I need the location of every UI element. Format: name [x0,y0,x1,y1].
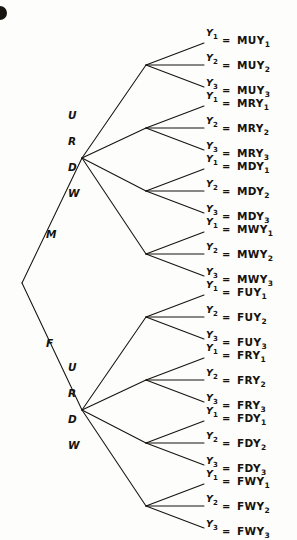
equals-sign-FR-1: = [222,351,230,361]
equals-sign-MR-1: = [222,99,230,109]
outcome-label-FR1: FRY1 [237,350,266,364]
equals-sign-MD-2: = [222,187,230,197]
equals-sign-FR-3: = [222,401,230,411]
leaf-y-label-MD-2: Y2 [206,179,218,192]
outcome-label-FD2: FDY2 [237,438,266,452]
leaf-y-label-MD-1: Y1 [206,154,218,167]
edge-leaf-MU-1 [146,43,204,65]
branch-label-M: M [46,229,56,240]
edge-leaf-FW-3 [146,506,204,528]
equals-sign-MW-2: = [222,250,230,260]
outcome-label-MW1: MWY1 [237,224,273,238]
outcome-label-FU1: FUY1 [237,287,267,301]
leaf-y-label-MR-1: Y1 [206,91,218,104]
equals-sign-MU-3: = [222,86,230,96]
equals-sign-MD-3: = [222,212,230,222]
leaf-y-label-MU-3: Y3 [206,78,218,91]
edge-level2-MD [82,158,146,191]
equals-sign-FU-3: = [222,338,230,348]
leaf-y-label-MW-1: Y1 [206,217,218,230]
tree-branches-svg [0,0,297,540]
equals-sign-FR-2: = [222,376,230,386]
outcome-label-MD2: MDY2 [237,186,269,200]
outcome-label-MW2: MWY2 [237,249,273,263]
edge-level2-FU [82,317,146,410]
outcome-label-FU2: FUY2 [237,312,267,326]
leaf-y-label-FR-2: Y2 [206,368,218,381]
leaf-y-label-MU-1: Y1 [206,28,218,41]
equals-sign-MD-1: = [222,162,230,172]
leaf-y-label-MR-3: Y3 [206,141,218,154]
edge-leaf-MW-1 [146,232,204,254]
equals-sign-MR-2: = [222,124,230,134]
leaf-y-label-FU-3: Y3 [206,330,218,343]
probability-tree-diagram: MFURDWURDWY1=MUY1Y2=MUY2Y3=MUY3Y1=MRY1Y2… [0,0,297,540]
edge-level2-FW [82,410,146,506]
equals-sign-MU-1: = [222,36,230,46]
edge-leaf-FU-3 [146,317,204,339]
equals-sign-MU-2: = [222,61,230,71]
edge-level2-MR [82,128,146,158]
branch-label-level2-3-W: W [68,188,80,199]
leaf-y-label-FW-3: Y3 [206,519,218,532]
outcome-label-MD1: MDY1 [237,161,269,175]
edge-leaf-FR-3 [146,380,204,402]
edge-level2-MU [82,65,146,158]
leaf-y-label-FU-2: Y2 [206,305,218,318]
outcome-label-FD1: FDY1 [237,413,266,427]
equals-sign-FD-2: = [222,439,230,449]
leaf-y-label-FU-1: Y1 [206,280,218,293]
branch-label-level2-7-W: W [68,440,80,451]
branch-label-level2-2-D: D [68,162,77,173]
edge-leaf-FW-1 [146,484,204,506]
leaf-y-label-FD-2: Y2 [206,431,218,444]
equals-sign-FD-1: = [222,414,230,424]
edge-leaf-MW-3 [146,254,204,276]
outcome-label-MU1: MUY1 [237,35,270,49]
leaf-y-label-FW-1: Y1 [206,469,218,482]
leaf-y-label-FR-1: Y1 [206,343,218,356]
leaf-y-label-FW-2: Y2 [206,494,218,507]
outcome-label-MU2: MUY2 [237,60,270,74]
edge-level2-MW [82,158,146,254]
tree-edge-group [22,43,204,528]
branch-label-level2-1-R: R [68,136,76,147]
outcome-label-FR2: FRY2 [237,375,266,389]
equals-sign-FW-2: = [222,502,230,512]
leaf-y-label-FD-1: Y1 [206,406,218,419]
edge-level1-M [22,158,82,283]
edge-leaf-FD-3 [146,443,204,465]
equals-sign-FW-3: = [222,527,230,537]
leaf-y-label-FD-3: Y3 [206,456,218,469]
edge-level2-FD [82,410,146,443]
outcome-label-MR2: MRY2 [237,123,269,137]
branch-label-level2-0-U: U [68,110,77,121]
edge-leaf-MR-3 [146,128,204,150]
branch-label-F: F [46,338,53,349]
branch-label-level2-4-U: U [68,362,77,373]
edge-leaf-FD-1 [146,421,204,443]
edge-leaf-MD-1 [146,169,204,191]
edge-leaf-FR-1 [146,358,204,380]
edge-leaf-MR-1 [146,106,204,128]
equals-sign-MW-3: = [222,275,230,285]
equals-sign-FU-2: = [222,313,230,323]
equals-sign-MR-3: = [222,149,230,159]
edge-level2-FR [82,380,146,410]
outcome-label-FW2: FWY2 [237,501,270,515]
leaf-y-label-MU-2: Y2 [206,53,218,66]
outcome-label-FW3: FWY3 [237,526,270,540]
leaf-y-label-MR-2: Y2 [206,116,218,129]
outcome-label-MR1: MRY1 [237,98,269,112]
leaf-y-label-MW-3: Y3 [206,267,218,280]
equals-sign-MW-1: = [222,225,230,235]
edge-leaf-MD-3 [146,191,204,213]
branch-label-level2-5-R: R [68,388,76,399]
branch-label-level2-6-D: D [68,414,77,425]
edge-leaf-MU-3 [146,65,204,87]
edge-leaf-FU-1 [146,295,204,317]
leaf-y-label-MW-2: Y2 [206,242,218,255]
leaf-y-label-FR-3: Y3 [206,393,218,406]
equals-sign-FD-3: = [222,464,230,474]
outcome-label-FW1: FWY1 [237,476,270,490]
